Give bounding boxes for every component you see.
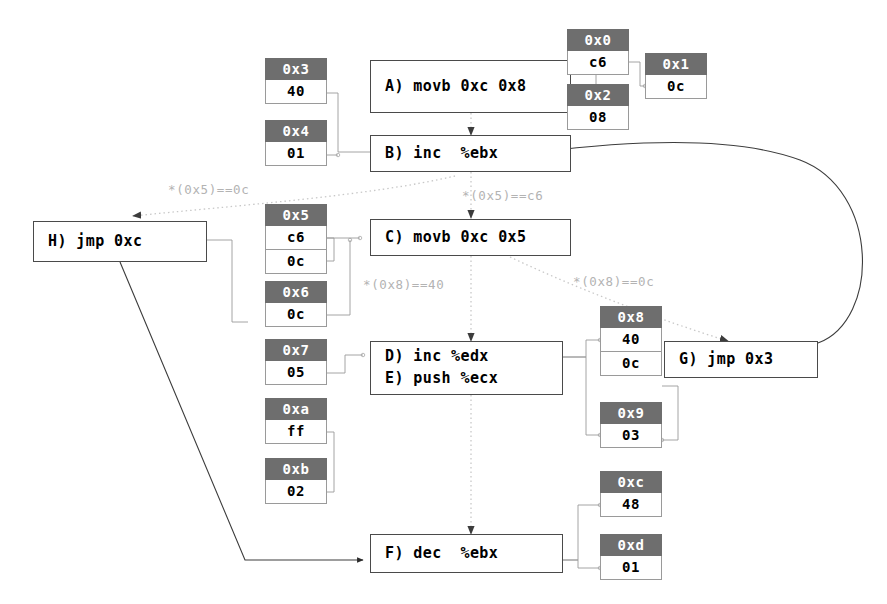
memory-cell-0x3-address: 0x3 — [265, 58, 327, 80]
conn-f-0xd — [563, 560, 600, 568]
conn-f-0xc — [563, 505, 600, 560]
diagram-canvas: *(0x5)==0c *(0x5)==c6 *(0x8)==40 *(0x8)=… — [0, 0, 887, 604]
memory-cell-0x5-value-1: 0c — [265, 250, 327, 274]
memory-cell-0xb-value-0: 02 — [265, 480, 327, 504]
memory-cell-0xc-address: 0xc — [600, 471, 662, 493]
memory-cell-0x9-value-0: 03 — [600, 424, 662, 448]
memory-cell-0x6-address: 0x6 — [265, 281, 327, 303]
memory-cell-0x4-address: 0x4 — [265, 120, 327, 142]
node-b-line-1: B) inc %ebx — [371, 143, 570, 165]
memory-cell-0xa[interactable]: 0xa ff — [265, 398, 327, 444]
memory-cell-0x2[interactable]: 0x2 08 — [567, 84, 629, 130]
node-h-line-1: H) jmp 0xc — [34, 231, 206, 253]
memory-cell-0x5-address: 0x5 — [265, 204, 327, 226]
memory-cell-0x3-value-0: 40 — [265, 80, 327, 104]
node-b-inc[interactable]: B) inc %ebx — [370, 135, 571, 172]
node-e-line: E) push %ecx — [371, 368, 562, 390]
memory-cell-0xb[interactable]: 0xb 02 — [265, 458, 327, 504]
memory-cell-0xa-value-0: ff — [265, 420, 327, 444]
memory-cell-0xc-value-0: 48 — [600, 493, 662, 517]
node-de-inc-push[interactable]: D) inc %edx E) push %ecx — [370, 341, 563, 395]
edge-label-b-to-c: *(0x5)==c6 — [462, 188, 543, 203]
memory-cell-0x0-address: 0x0 — [567, 29, 629, 51]
memory-cell-0xd[interactable]: 0xd 01 — [600, 534, 662, 580]
memory-cell-0x7-value-0: 05 — [265, 361, 327, 385]
memory-cell-0xd-value-0: 01 — [600, 556, 662, 580]
memory-cell-0x3[interactable]: 0x3 40 — [265, 58, 327, 104]
memory-cell-0xd-address: 0xd — [600, 534, 662, 556]
node-c-movb[interactable]: C) movb 0xc 0x5 — [370, 219, 571, 256]
edge-label-c-to-de: *(0x8)==40 — [363, 277, 444, 292]
memory-cell-0x0-value-0: c6 — [567, 51, 629, 75]
node-g-line-1: G) jmp 0x3 — [665, 349, 817, 371]
node-a-line-1: A) movb 0xc 0x8 — [371, 76, 570, 98]
node-a-movb[interactable]: A) movb 0xc 0x8 — [370, 60, 571, 113]
memory-cell-0x6[interactable]: 0x6 0c — [265, 281, 327, 327]
memory-cell-0x8[interactable]: 0x8 40 0c — [600, 306, 662, 376]
memory-cell-0x4[interactable]: 0x4 01 — [265, 120, 327, 166]
memory-cell-0x1[interactable]: 0x1 0c — [645, 53, 707, 99]
node-g-jmp[interactable]: G) jmp 0x3 — [664, 341, 818, 378]
edge-label-b-to-h: *(0x5)==0c — [168, 182, 249, 197]
memory-cell-0xa-address: 0xa — [265, 398, 327, 420]
conn-h-rail — [207, 240, 248, 322]
memory-cell-0x9-address: 0x9 — [600, 402, 662, 424]
memory-cell-0x2-address: 0x2 — [567, 84, 629, 106]
memory-cell-0xc[interactable]: 0xc 48 — [600, 471, 662, 517]
memory-cell-0x5[interactable]: 0x5 c6 0c — [265, 204, 327, 274]
memory-cell-0x4-value-0: 01 — [265, 142, 327, 166]
memory-cell-0xb-address: 0xb — [265, 458, 327, 480]
memory-cell-0x0[interactable]: 0x0 c6 — [567, 29, 629, 75]
memory-cell-0x1-value-0: 0c — [645, 75, 707, 99]
memory-cell-0x1-address: 0x1 — [645, 53, 707, 75]
node-c-line-1: C) movb 0xc 0x5 — [371, 227, 570, 249]
memory-cell-0x8-value-1: 0c — [600, 352, 662, 376]
conn-de-0x8 — [563, 340, 600, 357]
memory-cell-0x7-address: 0x7 — [265, 339, 327, 361]
node-f-dec[interactable]: F) dec %ebx — [370, 534, 563, 573]
node-h-jmp[interactable]: H) jmp 0xc — [33, 221, 207, 262]
memory-cell-0x5-value-0: c6 — [265, 226, 327, 250]
edge-g-to-b — [540, 143, 862, 344]
memory-cell-0x2-value-0: 08 — [567, 106, 629, 130]
memory-cell-0x8-value-0: 40 — [600, 328, 662, 352]
memory-cell-0x8-address: 0x8 — [600, 306, 662, 328]
conn-0x8-0x9 — [662, 386, 678, 440]
conn-de-0x9 — [563, 357, 600, 435]
memory-cell-0x9[interactable]: 0x9 03 — [600, 402, 662, 448]
node-d-line: D) inc %edx — [371, 346, 562, 368]
memory-cell-0x7[interactable]: 0x7 05 — [265, 339, 327, 385]
memory-cell-0x6-value-0: 0c — [265, 303, 327, 327]
edge-label-c-to-g: *(0x8)==0c — [573, 274, 654, 289]
node-f-line-1: F) dec %ebx — [371, 543, 562, 565]
